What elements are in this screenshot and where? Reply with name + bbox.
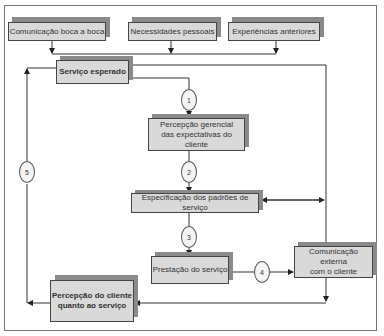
management-perception-box: Percepção gerencial das expectativas do …: [148, 118, 245, 151]
service-standards-box: Especificação dos padrões de serviço: [131, 193, 259, 213]
gap-2-circle: 2: [181, 161, 197, 183]
expected-service-label: Serviço esperado: [59, 67, 126, 77]
gap-3-circle: 3: [181, 226, 197, 248]
perceived-service-box: Percepção do cliente quanto ao serviço: [50, 280, 134, 322]
service-delivery-label: Prestação do serviço: [153, 265, 228, 275]
gap-1-circle: 1: [181, 89, 197, 111]
gap-4-circle: 4: [254, 261, 270, 283]
input-box-personal-needs: Necessidades pessoais: [128, 22, 217, 41]
management-perception-line1: Percepção gerencial: [160, 120, 233, 130]
perceived-service-line2: quanto ao serviço: [58, 301, 126, 311]
gap-5-circle: 5: [19, 161, 35, 183]
input-box-past-experience: Experiências anteriores: [228, 22, 320, 41]
input-box-label: Experiências anteriores: [232, 27, 316, 37]
gap-number: 4: [260, 269, 264, 276]
input-box-label: Comunicação boca a boca: [10, 27, 105, 37]
gap-number: 3: [187, 234, 191, 241]
service-delivery-box: Prestação do serviço: [151, 256, 229, 284]
expected-service-box: Serviço esperado: [56, 60, 129, 84]
external-communication-line1: Comunicação externa: [295, 247, 372, 267]
input-box-label: Necessidades pessoais: [130, 27, 214, 37]
gap-number: 5: [25, 169, 29, 176]
service-standards-label: Especificação dos padrões de serviço: [132, 193, 258, 213]
perceived-service-line1: Percepção do cliente: [52, 291, 132, 301]
input-box-word-of-mouth: Comunicação boca a boca: [8, 22, 106, 41]
gap-number: 2: [187, 169, 191, 176]
management-perception-line2: das expectativas do cliente: [149, 130, 244, 150]
gap-number: 1: [187, 97, 191, 104]
external-communication-line2: com o cliente: [310, 267, 357, 277]
external-communication-box: Comunicação externa com o cliente: [294, 246, 373, 278]
service-quality-gap-diagram: Comunicação boca a boca Necessidades pes…: [0, 0, 384, 336]
